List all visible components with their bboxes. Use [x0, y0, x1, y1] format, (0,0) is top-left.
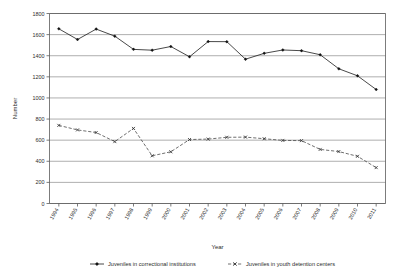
- y-tick-label: 1000: [33, 95, 45, 101]
- y-tick-label: 200: [36, 179, 45, 185]
- y-tick-label: 400: [36, 158, 45, 164]
- y-tick-label: 1400: [33, 53, 45, 59]
- line-chart: 020040060080010001200140016001800 199419…: [0, 0, 403, 276]
- y-tick-label: 1200: [33, 74, 45, 80]
- y-tick-label: 1800: [33, 11, 45, 17]
- chart-canvas: 020040060080010001200140016001800 199419…: [0, 0, 403, 276]
- y-axis-title: Number: [12, 98, 18, 119]
- y-tick-label: 800: [36, 116, 45, 122]
- legend-label: Juveniles in youth detention centers: [246, 261, 335, 267]
- y-tick-label: 1600: [33, 32, 45, 38]
- legend-label: Juveniles in correctional institutions: [108, 261, 196, 267]
- y-tick-label: 0: [42, 201, 45, 207]
- x-axis-title: Year: [211, 244, 223, 250]
- chart-background: [0, 0, 403, 276]
- y-tick-label: 600: [36, 137, 45, 143]
